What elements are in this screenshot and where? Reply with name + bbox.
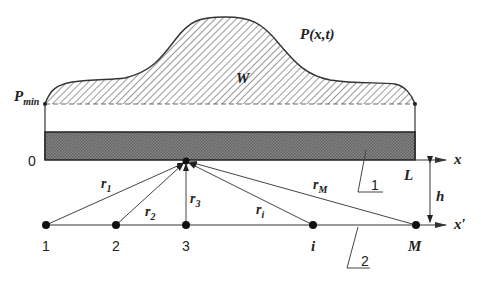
callout-label-1: 1 — [371, 177, 379, 193]
sensor-label-i: i — [311, 238, 316, 254]
height-label: h — [436, 188, 444, 204]
sensor-point-3 — [182, 221, 190, 229]
p-min-subscript: min — [23, 96, 40, 107]
ray-label-r3: r3 — [190, 191, 200, 209]
sensor-label-3: 3 — [182, 238, 190, 254]
sensor-point-m — [412, 221, 420, 229]
plate-body-1 — [45, 132, 415, 160]
length-label: L — [403, 167, 413, 183]
ray-rm — [190, 162, 416, 225]
callout-label-2: 2 — [361, 253, 369, 269]
pressure-curve-label: P(x,t) — [300, 26, 335, 43]
x-axis-label: x — [453, 151, 462, 167]
p-min-label: Pmin — [14, 88, 40, 107]
ray-label-r1: r1 — [101, 176, 111, 194]
ray-label-ri: ri — [256, 202, 264, 220]
ray-ri — [189, 163, 313, 225]
sensor-point-2 — [112, 221, 120, 229]
ray-label-rm: rM — [313, 177, 328, 195]
sensor-label-1: 1 — [42, 238, 50, 254]
sensor-label-m: M — [407, 238, 422, 254]
x-prime-axis-label: x′ — [453, 216, 466, 232]
sensor-point-1 — [42, 221, 50, 229]
ray-r1 — [46, 163, 184, 225]
source-point — [183, 158, 190, 165]
area-label-w: W — [236, 70, 251, 86]
diagram-canvas: P(x,t) W Pmin 0 x x′ L h 1 2 r1 r2 r3 ri… — [0, 0, 481, 283]
pressure-region-w — [45, 17, 415, 104]
sensor-label-2: 2 — [112, 238, 120, 254]
origin-label: 0 — [28, 153, 36, 169]
sensor-point-i — [309, 221, 317, 229]
ray-label-r2: r2 — [145, 204, 155, 222]
